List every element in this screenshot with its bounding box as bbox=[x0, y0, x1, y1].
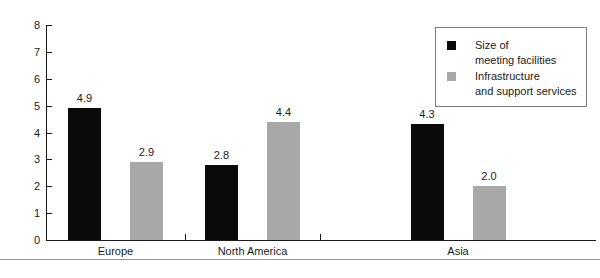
bar-value-label: 4.4 bbox=[257, 107, 310, 118]
legend-label-series-a: Size of meeting facilities bbox=[475, 38, 590, 68]
y-axis-tick-label: 6 bbox=[22, 74, 40, 85]
bar-value-label: 4.9 bbox=[58, 93, 111, 104]
bar bbox=[130, 162, 163, 240]
x-axis-group-separator bbox=[320, 234, 321, 241]
y-axis-tick bbox=[46, 186, 52, 187]
y-axis-tick-label: 2 bbox=[22, 181, 40, 192]
category-label: North America bbox=[185, 245, 320, 258]
bar-value-label: 2.0 bbox=[463, 171, 516, 182]
legend-swatch-icon-series-a bbox=[447, 41, 456, 50]
legend-label-series-b: Infrastructure and support services bbox=[475, 69, 590, 99]
y-axis-tick-label: 4 bbox=[22, 128, 40, 139]
bar bbox=[68, 108, 101, 240]
x-axis-line bbox=[46, 240, 596, 241]
y-axis-tick-label: 5 bbox=[22, 101, 40, 112]
bar bbox=[205, 165, 238, 240]
y-axis-tick bbox=[46, 133, 52, 134]
y-axis-tick bbox=[46, 159, 52, 160]
y-axis-tick bbox=[46, 213, 52, 214]
y-axis-tick-label: 8 bbox=[22, 20, 40, 31]
bar-value-label: 2.9 bbox=[120, 147, 173, 158]
y-axis-tick-label: 1 bbox=[22, 208, 40, 219]
y-axis-tick-label: 7 bbox=[22, 47, 40, 58]
bar-value-label: 2.8 bbox=[195, 150, 248, 161]
y-axis-tick-label: 3 bbox=[22, 154, 40, 165]
y-axis-tick bbox=[46, 240, 52, 241]
bar bbox=[473, 186, 506, 240]
bar bbox=[267, 122, 300, 240]
y-axis-tick bbox=[46, 25, 52, 26]
y-axis-tick bbox=[46, 79, 52, 80]
y-axis-tick bbox=[46, 106, 52, 107]
bar-chart-figure: 012345678 4.92.92.84.44.32.0 EuropeNorth… bbox=[0, 0, 600, 278]
category-label: Asia bbox=[320, 245, 596, 258]
legend-box: Size of meeting facilities Infrastructur… bbox=[435, 27, 587, 107]
x-axis-group-separator bbox=[185, 234, 186, 241]
category-label: Europe bbox=[46, 245, 185, 258]
figure-bottom-rule bbox=[0, 259, 600, 260]
bar bbox=[411, 124, 444, 240]
y-axis-tick bbox=[46, 52, 52, 53]
y-axis-tick-label: 0 bbox=[22, 235, 40, 246]
legend-swatch-icon-series-b bbox=[447, 72, 456, 81]
bar-value-label: 4.3 bbox=[401, 109, 454, 120]
